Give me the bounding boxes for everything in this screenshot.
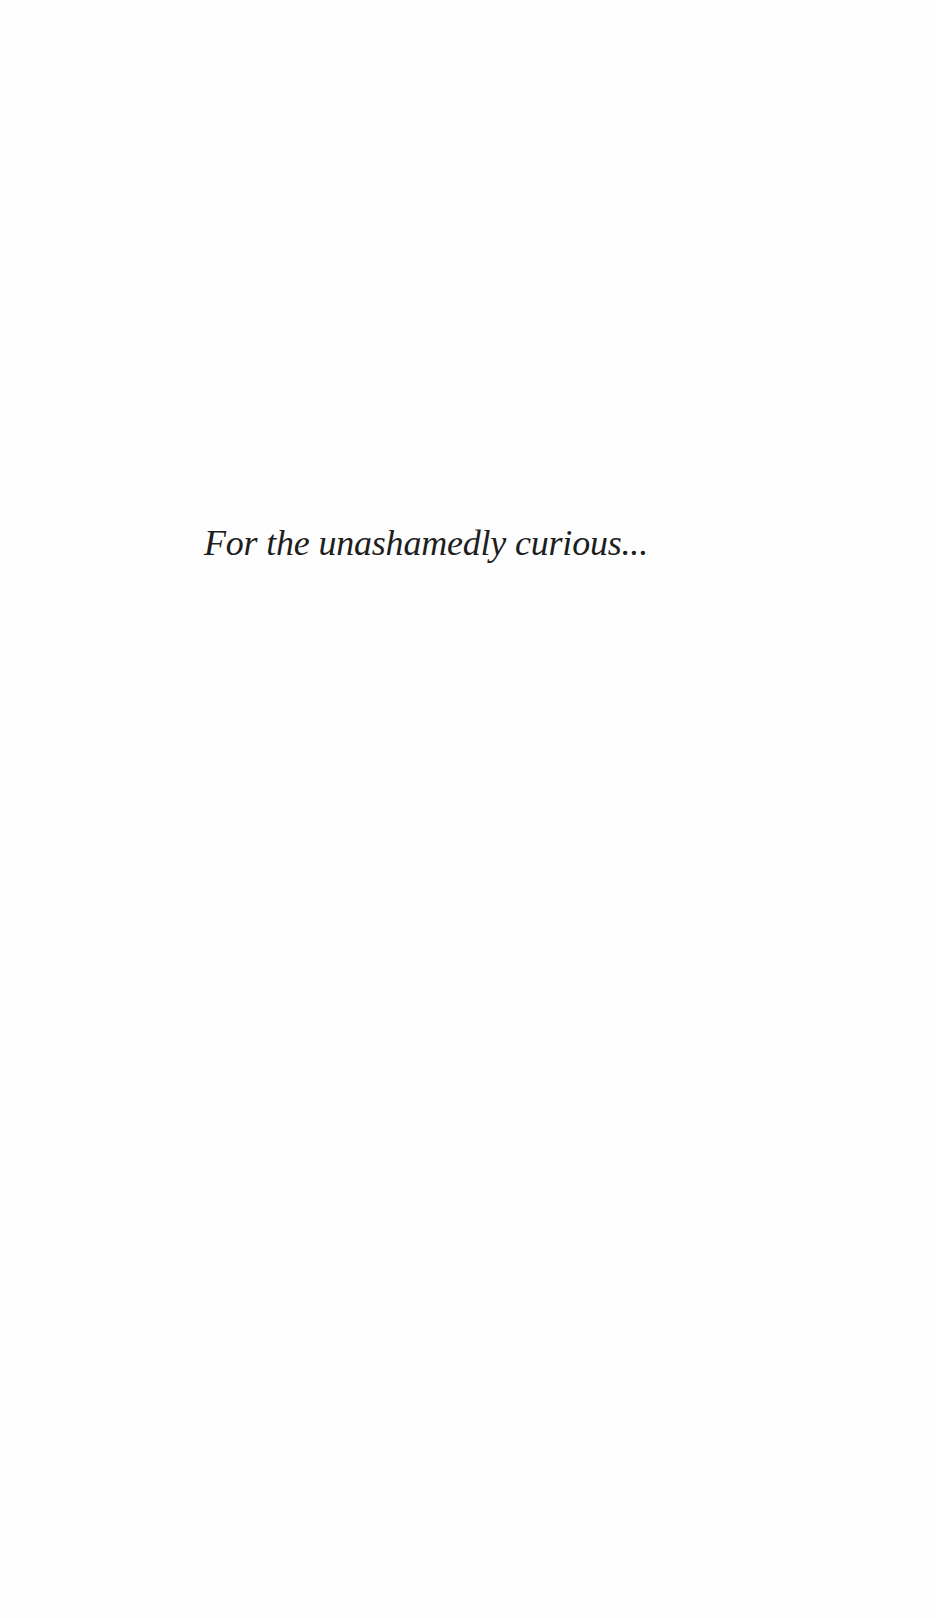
dedication-text: For the unashamedly curious... <box>204 518 648 568</box>
book-page: For the unashamedly curious... <box>0 0 936 1618</box>
